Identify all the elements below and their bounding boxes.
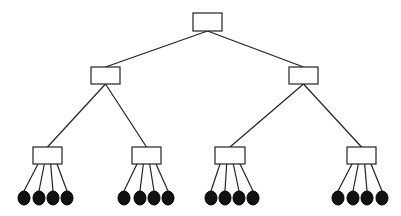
edge-line xyxy=(106,84,147,147)
edge-line xyxy=(39,164,44,191)
edge-line xyxy=(208,31,304,67)
level2-node xyxy=(347,147,376,164)
root-node xyxy=(193,13,222,31)
tree-diagram xyxy=(0,0,401,216)
edge-line xyxy=(353,164,358,191)
edge-line xyxy=(51,164,53,191)
edge-line xyxy=(365,164,367,191)
level1-node xyxy=(289,67,318,84)
level1-node xyxy=(91,67,120,84)
edge-line xyxy=(150,164,154,191)
edge-line xyxy=(233,164,239,191)
level2-node xyxy=(132,147,161,164)
leaf-node xyxy=(219,191,231,205)
edge-line xyxy=(211,164,220,191)
leaf-node xyxy=(162,191,174,205)
level2-node xyxy=(215,147,245,164)
leaf-node xyxy=(205,191,217,205)
edge-line xyxy=(230,84,304,147)
edge-line xyxy=(24,164,38,191)
leaf-node xyxy=(376,191,388,205)
edge-line xyxy=(48,84,106,147)
edge-line xyxy=(57,164,67,191)
leaf-node xyxy=(332,191,344,205)
edge-line xyxy=(124,164,137,191)
leaf-node xyxy=(247,191,259,205)
edge-line xyxy=(338,164,352,191)
leaf-node xyxy=(118,191,130,205)
leaf-node xyxy=(148,191,160,205)
edge-line xyxy=(225,164,227,191)
edge-line xyxy=(140,164,143,191)
leaf-node xyxy=(361,191,373,205)
edge-line xyxy=(156,164,168,191)
leaf-node xyxy=(134,191,146,205)
level2-node xyxy=(33,147,62,164)
edge-line xyxy=(106,31,208,67)
leaf-node xyxy=(47,191,59,205)
leaf-node xyxy=(18,191,30,205)
edge-line xyxy=(240,164,253,191)
edge-line xyxy=(371,164,382,191)
leaf-node xyxy=(233,191,245,205)
edge-line xyxy=(304,84,362,147)
leaf-node xyxy=(347,191,359,205)
leaf-node xyxy=(61,191,73,205)
leaf-node xyxy=(33,191,45,205)
